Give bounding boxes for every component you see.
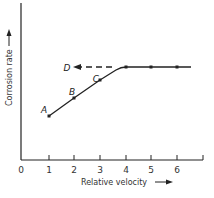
marker-5 [150,66,153,69]
x-tick-4: 4 [123,165,129,175]
x-tick-5: 5 [148,165,154,175]
marker-6 [176,66,179,69]
y-axis-label: Corrosion rate [5,49,14,106]
corrosion-velocity-chart: 0 1 2 3 4 5 6 Relative velocity Corrosio… [0,0,214,198]
marker-4 [125,66,128,69]
x-tick-labels: 0 1 2 3 4 5 6 [18,165,180,175]
point-label-d: D [64,63,71,73]
y-axis-arrow-icon [7,29,12,46]
x-tick-0: 0 [18,165,24,175]
x-ticks [49,155,203,160]
point-label-b: B [69,87,75,97]
x-tick-6: 6 [174,165,180,175]
marker-a [48,115,51,118]
point-label-c: C [93,74,100,84]
dashed-arrow-to-d [73,64,112,70]
x-axis-label: Relative velocity [81,178,147,187]
data-markers [48,66,179,118]
x-tick-3: 3 [97,165,103,175]
x-axis-arrow-icon [155,180,173,185]
x-tick-1: 1 [46,165,52,175]
x-tick-2: 2 [71,165,77,175]
point-label-a: A [40,105,47,115]
